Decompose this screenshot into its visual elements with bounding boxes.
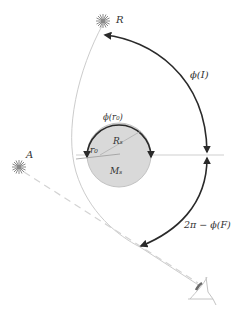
label-mass-Ms: Mₛ	[109, 166, 122, 176]
label-phi-I: ϕ(I)	[190, 69, 209, 80]
label-two-pi-minus-phi-F: 2π − ϕ(F)	[183, 219, 231, 230]
star-R-icon	[96, 14, 110, 28]
label-phi-r0: ϕ(r₀)	[103, 112, 123, 122]
planet-body	[87, 123, 151, 187]
label-r0: r₀	[90, 145, 98, 155]
two-pi-minus-phi-F-arc	[141, 158, 207, 246]
gravitational-lensing-diagram: R A ϕ(I) ϕ(r₀) Rₛ r₀ Mₛ 2π − ϕ(F)	[0, 0, 237, 317]
label-A: A	[25, 149, 33, 160]
star-A-icon	[12, 160, 26, 174]
label-R: R	[115, 14, 124, 25]
label-radius-Rs: Rₛ	[112, 136, 123, 146]
